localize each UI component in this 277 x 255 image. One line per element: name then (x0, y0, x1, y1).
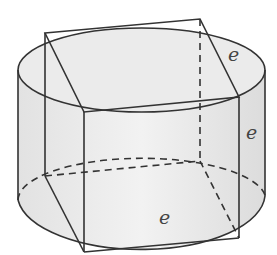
label-bottom-edge: e (159, 206, 170, 228)
label-vertical-edge: e (246, 121, 257, 143)
cylinder-prism-diagram: e e e (0, 0, 277, 255)
diagram-canvas: e e e (0, 0, 277, 255)
label-top-edge: e (228, 43, 239, 65)
